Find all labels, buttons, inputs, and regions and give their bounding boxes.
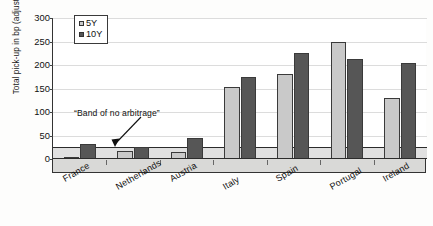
bar-chart: Total pick-up in bp (adjusted) 050100150… xyxy=(0,0,433,226)
bar-italy-10y xyxy=(241,77,257,159)
y-axis-tick-label: 100 xyxy=(20,107,50,116)
y-axis-tick xyxy=(50,18,53,19)
y-axis-tick-label: 0 xyxy=(20,154,50,163)
bar-portugal-10y xyxy=(347,59,363,159)
y-axis-tick-label: 300 xyxy=(20,13,50,22)
x-axis-category-labels: FranceNetherlandsAustriaItalySpainPortug… xyxy=(52,173,426,226)
bar-spain-5y xyxy=(277,74,293,159)
bar-italy-5y xyxy=(224,87,240,159)
x-axis-tick xyxy=(213,160,214,165)
legend-label-10y: 10Y xyxy=(86,30,102,39)
x-axis-tick xyxy=(374,160,375,165)
y-axis-tick-label: 200 xyxy=(20,60,50,69)
y-axis-tick xyxy=(50,112,53,113)
x-axis-tick xyxy=(320,160,321,165)
legend-item-5y: 5Y xyxy=(79,18,102,29)
legend-item-10y: 10Y xyxy=(79,29,102,40)
y-axis-tick xyxy=(50,89,53,90)
legend-label-5y: 5Y xyxy=(86,19,97,28)
bar-austria-10y xyxy=(187,138,203,159)
y-axis-tick-label: 150 xyxy=(20,84,50,93)
bar-ireland-5y xyxy=(384,98,400,159)
y-axis-tick xyxy=(50,42,53,43)
legend-swatch-10y-icon xyxy=(79,32,84,37)
legend-swatch-5y-icon xyxy=(79,21,84,26)
x-axis-strip xyxy=(52,159,426,173)
x-axis-tick xyxy=(106,160,107,165)
y-axis-tick-label: 50 xyxy=(20,131,50,140)
x-axis-tick xyxy=(267,160,268,165)
y-axis-tick-label: 250 xyxy=(20,37,50,46)
y-axis-tick xyxy=(50,65,53,66)
chart-legend: 5Y 10Y xyxy=(74,15,108,44)
bar-ireland-10y xyxy=(401,63,417,159)
bar-spain-10y xyxy=(294,53,310,159)
y-axis-tick xyxy=(50,136,53,137)
bar-portugal-5y xyxy=(331,42,347,160)
bar-france-10y xyxy=(80,144,96,159)
annotation-arrow-icon xyxy=(108,116,144,150)
y-axis-tick-labels: 050100150200250300 xyxy=(20,12,50,162)
x-axis-label-italy: Italy xyxy=(221,174,241,191)
